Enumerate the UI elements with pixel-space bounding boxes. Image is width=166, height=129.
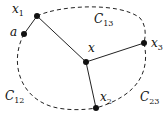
edge-x1-a [24,16,37,34]
node-x2 [93,105,99,111]
label-x1: x1 [12,3,24,18]
curve-c13 [37,7,145,43]
curve-c12 [17,34,96,110]
label-c12: C12 [5,90,24,105]
node-x3 [141,40,147,46]
label-x3: xx3 [151,37,163,52]
label-c23: C23 [140,91,159,106]
edge-x-x2 [86,62,96,108]
node-x [83,59,89,65]
label-c13: C13 [94,13,113,28]
label-a: a [10,26,17,38]
node-a [21,31,27,37]
label-x2: x2 [100,91,112,106]
label-x: x [88,42,95,54]
node-x1 [34,13,40,19]
diagram-canvas [0,0,166,129]
edge-x-x1 [37,16,86,62]
diagram: x1 a x xx3 x2 C13 C12 C23 [0,0,166,129]
